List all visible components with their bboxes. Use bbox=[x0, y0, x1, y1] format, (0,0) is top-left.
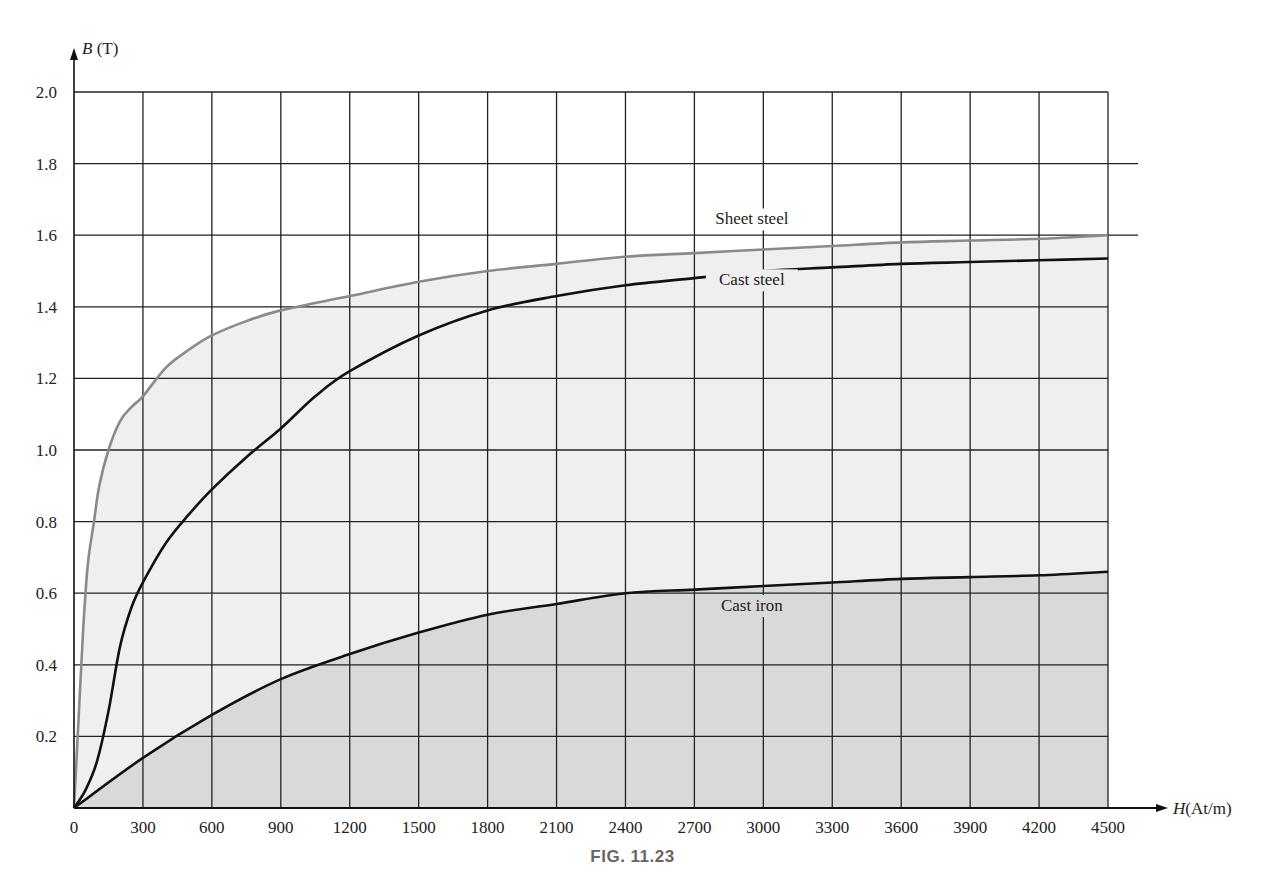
y-tick-label: 0.8 bbox=[36, 513, 57, 532]
y-tick-label: 0.6 bbox=[36, 584, 57, 603]
series-label-cast-steel: Cast steel bbox=[719, 270, 785, 289]
x-tick-label: 600 bbox=[199, 818, 225, 837]
x-tick-label: 2400 bbox=[608, 818, 642, 837]
x-axis-title: H(At/m) bbox=[1172, 799, 1232, 818]
x-tick-label: 2100 bbox=[540, 818, 574, 837]
x-tick-label: 300 bbox=[130, 818, 156, 837]
x-tick-label: 0 bbox=[70, 818, 79, 837]
figure-caption: FIG. 11.23 bbox=[0, 847, 1265, 867]
x-tick-label: 1500 bbox=[402, 818, 436, 837]
y-axis-title: B (T) bbox=[82, 39, 118, 58]
x-tick-label: 1200 bbox=[333, 818, 367, 837]
x-tick-label: 4200 bbox=[1022, 818, 1056, 837]
y-tick-label: 1.8 bbox=[36, 155, 57, 174]
x-tick-label: 1800 bbox=[471, 818, 505, 837]
y-tick-label: 1.4 bbox=[36, 298, 58, 317]
y-tick-label: 1.2 bbox=[36, 369, 57, 388]
y-axis-arrow-icon bbox=[70, 48, 78, 60]
bh-curve-chart: 0300600900120015001800210024002700300033… bbox=[0, 0, 1265, 883]
x-tick-label: 900 bbox=[268, 818, 294, 837]
y-tick-label: 2.0 bbox=[36, 83, 57, 102]
x-tick-label: 3900 bbox=[953, 818, 987, 837]
series-label-sheet-steel: Sheet steel bbox=[715, 209, 788, 228]
x-tick-label: 3000 bbox=[746, 818, 780, 837]
series-label-cast-iron: Cast iron bbox=[721, 596, 783, 615]
y-tick-label: 0.4 bbox=[36, 656, 58, 675]
y-tick-label: 1.0 bbox=[36, 441, 57, 460]
y-tick-label: 1.6 bbox=[36, 226, 57, 245]
x-tick-label: 4500 bbox=[1091, 818, 1125, 837]
x-tick-label: 3300 bbox=[815, 818, 849, 837]
x-axis-arrow-icon bbox=[1156, 804, 1168, 812]
y-tick-label: 0.2 bbox=[36, 727, 57, 746]
x-tick-label: 2700 bbox=[677, 818, 711, 837]
x-tick-label: 3600 bbox=[884, 818, 918, 837]
